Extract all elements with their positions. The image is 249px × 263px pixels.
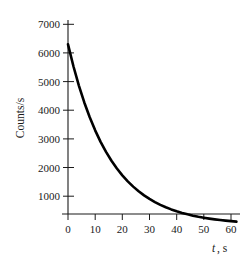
chart-figure: 7000 6000 5000 4000 3000 2000 1000 0 10 … bbox=[0, 0, 249, 263]
y-tick-label-6000: 6000 bbox=[38, 47, 61, 59]
y-tick-label-4000: 4000 bbox=[38, 104, 61, 116]
x-tick-label-40: 40 bbox=[171, 223, 183, 235]
x-tick-label-20: 20 bbox=[117, 223, 129, 235]
x-tick-label-30: 30 bbox=[144, 223, 156, 235]
y-axis-title: Counts/s bbox=[14, 97, 26, 138]
y-tick-label-5000: 5000 bbox=[38, 76, 61, 88]
y-tick-label-1000: 1000 bbox=[38, 190, 61, 202]
x-axis-title: t , s bbox=[212, 242, 228, 255]
decay-curve-line bbox=[68, 44, 236, 221]
x-tick-label-0: 0 bbox=[65, 223, 71, 235]
x-tick-label-60: 60 bbox=[226, 223, 238, 235]
y-tick-label-7000: 7000 bbox=[38, 18, 61, 30]
decay-curve-chart: 7000 6000 5000 4000 3000 2000 1000 0 10 … bbox=[0, 0, 249, 263]
x-tick-label-10: 10 bbox=[90, 223, 102, 235]
y-tick-label-3000: 3000 bbox=[38, 133, 61, 145]
y-tick-label-2000: 2000 bbox=[38, 162, 61, 174]
x-tick-label-50: 50 bbox=[198, 223, 210, 235]
x-axis-title-unit: , s bbox=[217, 242, 228, 255]
x-axis-title-symbol: t bbox=[212, 242, 216, 254]
